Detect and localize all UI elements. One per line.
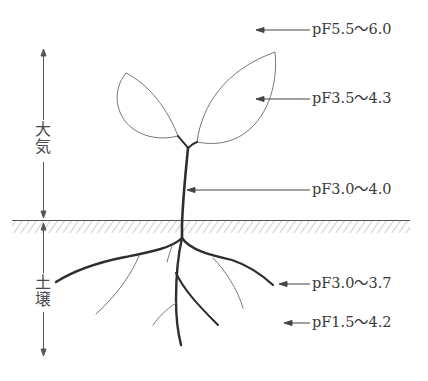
arrow-air-icon — [256, 28, 264, 33]
atmosphere-label-char-2: 気 — [33, 139, 53, 156]
annotation-root: pF3.0～3.7 — [312, 276, 391, 291]
soil-label-char-2: 壌 — [33, 292, 53, 309]
zone-axis — [41, 49, 46, 356]
roots — [56, 238, 273, 345]
arrow-soil-icon — [284, 321, 292, 326]
arrow-root-icon — [279, 282, 287, 287]
leaves — [117, 52, 275, 143]
annotation-arrows — [187, 28, 310, 326]
arrow-leaf-icon — [256, 97, 264, 102]
annotation-stem: pF3.0～4.0 — [312, 182, 391, 197]
soil-hatch — [12, 221, 410, 233]
soil-label: 土 壌 — [33, 275, 53, 309]
atmosphere-label: 大 気 — [33, 122, 53, 156]
arrow-stem-icon — [187, 188, 195, 193]
plant-water-potential-diagram: 大 気 土 壌 pF5.5～6.0 pF3.5～4.3 pF3.0～4.0 pF… — [0, 0, 428, 381]
annotation-soil: pF1.5～4.2 — [312, 315, 391, 330]
annotation-leaf: pF3.5～4.3 — [312, 91, 391, 106]
annotation-air: pF5.5～6.0 — [312, 22, 391, 37]
ground-surface — [12, 221, 410, 234]
left-leaf — [117, 73, 178, 138]
